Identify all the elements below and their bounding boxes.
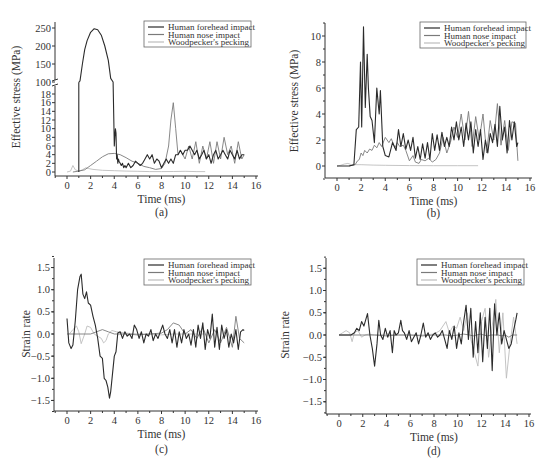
x-tick-label: 0: [64, 415, 69, 426]
y-tick-label: 100: [35, 77, 51, 88]
x-tick-label: 10: [452, 182, 463, 193]
x-axis-label: Time (ms): [138, 193, 186, 206]
x-tick-label: 6: [135, 415, 140, 426]
legend-label-woodpecker-pecking: Woodpecker's pecking: [444, 38, 526, 48]
x-tick-label: 0: [336, 418, 341, 429]
x-tick-label: 16: [524, 418, 535, 429]
x-tick-label: 12: [476, 418, 487, 429]
legend: Human forehead impactHuman nose impactWo…: [417, 259, 528, 285]
x-tick-label: 4: [112, 415, 118, 426]
x-tick-label: 6: [407, 182, 412, 193]
y-tick-label: 2: [316, 135, 321, 146]
panel-label: (b): [427, 207, 441, 220]
chart-a-effective-stress-biomechanics: 0246810121416024681012141618100150200250…: [10, 21, 261, 219]
y-tick-label: 1.5: [37, 262, 50, 273]
x-tick-label: 8: [431, 418, 436, 429]
series-line-forehead-impact: [79, 29, 244, 172]
series-line-forehead-impact: [67, 274, 244, 398]
legend: Human forehead impactHuman nose impactWo…: [144, 259, 255, 285]
x-tick-label: 8: [159, 415, 164, 426]
y-axis-label: Strain rate: [279, 311, 291, 359]
y-tick-label: −0.5: [303, 352, 322, 363]
y-tick-label: 4: [316, 109, 322, 120]
series-line-woodpecker-pecking: [337, 163, 478, 166]
axes: 02468101214160246810: [311, 23, 536, 193]
x-tick-label: 2: [88, 415, 93, 426]
y-axis-label: Effective stress (MPa): [288, 50, 301, 153]
x-tick-label: 14: [501, 182, 512, 193]
x-tick-label: 0: [334, 182, 339, 193]
y-tick-label: 18: [41, 89, 52, 100]
x-tick-label: 10: [180, 415, 191, 426]
y-tick-label: −1.5: [303, 396, 322, 407]
x-tick-label: 14: [500, 418, 511, 429]
y-tick-label: 0: [316, 161, 321, 172]
x-tick-label: 16: [251, 180, 262, 191]
legend-label-woodpecker-pecking: Woodpecker's pecking: [441, 275, 523, 285]
y-tick-label: 0.0: [37, 329, 50, 340]
x-tick-label: 14: [227, 415, 238, 426]
x-tick-label: 6: [408, 418, 413, 429]
y-tick-label: 1.0: [37, 284, 50, 295]
panel-label: (d): [427, 445, 441, 458]
y-tick-label: 0.5: [37, 306, 50, 317]
x-tick-label: 2: [359, 182, 364, 193]
y-tick-label: 6: [316, 83, 321, 94]
y-tick-label: 250: [35, 23, 51, 34]
x-axis-label: Time (ms): [410, 431, 458, 444]
legend-label-woodpecker-pecking: Woodpecker's pecking: [168, 37, 250, 47]
y-tick-label: 8: [316, 57, 321, 68]
series-line-woodpecker-pecking: [67, 166, 205, 173]
x-tick-label: 16: [251, 415, 262, 426]
panel-label: (a): [155, 206, 168, 219]
x-tick-label: 10: [453, 418, 464, 429]
x-tick-label: 12: [204, 415, 215, 426]
x-tick-label: 16: [525, 182, 536, 193]
chart-d-strain-rate-model: 0246810121416−1.5−1.0−0.50.00.51.01.5Tim…: [279, 257, 534, 458]
x-tick-label: 2: [360, 418, 365, 429]
x-tick-label: 4: [383, 182, 389, 193]
x-tick-label: 0: [64, 180, 69, 191]
y-tick-label: 1.0: [309, 285, 322, 296]
x-tick-label: 6: [135, 180, 140, 191]
x-tick-label: 8: [159, 180, 164, 191]
y-tick-label: 0.0: [309, 330, 322, 341]
y-tick-label: −0.5: [31, 351, 50, 362]
y-tick-label: 10: [311, 31, 322, 42]
x-tick-label: 4: [112, 180, 118, 191]
y-tick-label: 1.5: [309, 263, 322, 274]
y-tick-label: 200: [35, 41, 51, 52]
x-axis-label: Time (ms): [138, 428, 186, 441]
legend-label-woodpecker-pecking: Woodpecker's pecking: [168, 275, 250, 285]
x-tick-label: 8: [431, 182, 436, 193]
series-line-nose-impact: [73, 103, 244, 172]
panel-label: (c): [155, 443, 168, 456]
x-tick-label: 14: [227, 180, 238, 191]
series-line-forehead-impact: [339, 304, 517, 371]
chart-c-strain-rate-biomechanics: 0246810121416−1.5−1.0−0.50.00.51.01.5Tim…: [20, 256, 261, 456]
x-tick-label: 10: [180, 180, 191, 191]
y-axis-label: Effective stress (MPa): [10, 46, 23, 149]
legend: Human forehead impactHuman nose impactWo…: [144, 21, 255, 47]
y-tick-label: −1.0: [31, 373, 50, 384]
x-tick-label: 4: [384, 418, 390, 429]
y-tick-label: 150: [35, 59, 51, 70]
y-tick-label: −1.0: [303, 374, 322, 385]
legend: Human forehead impactHuman nose impactWo…: [420, 22, 531, 48]
x-tick-label: 2: [88, 180, 93, 191]
x-tick-label: 12: [477, 182, 488, 193]
y-tick-label: 0.5: [309, 307, 322, 318]
figure: 0246810121416024681012141618100150200250…: [0, 0, 552, 473]
y-axis-label: Strain rate: [20, 310, 32, 358]
chart-b-effective-stress-model: 02468101214160246810Time (ms)Effective s…: [288, 22, 535, 220]
x-tick-label: 12: [204, 180, 215, 191]
y-tick-label: −1.5: [31, 395, 50, 406]
